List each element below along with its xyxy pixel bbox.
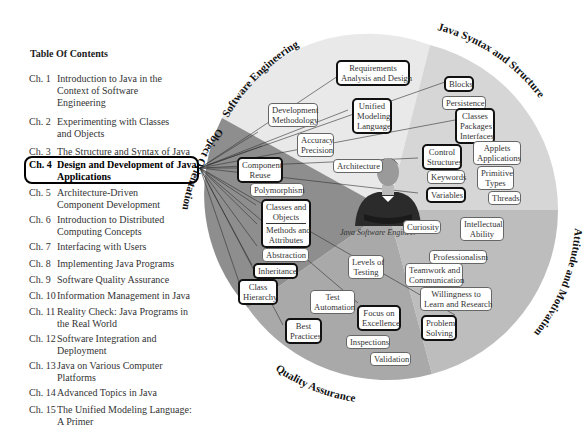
node-teamwork-communication[interactable]: Teamwork and Communication (405, 263, 463, 287)
node-applets-applications[interactable]: Applets Applications (473, 141, 521, 165)
node-primitive-types[interactable]: Primitive Types (477, 166, 514, 190)
node-validation[interactable]: Validation (370, 352, 411, 366)
toc-chapter-9[interactable]: Ch. 9 Software Quality Assurance (29, 274, 217, 286)
toc-chapter-7[interactable]: Ch. 7 Interfacing with Users (29, 241, 217, 253)
toc-title: Table Of Contents (30, 48, 108, 59)
node-unified-modeling-language[interactable]: Unified Modeling Language (352, 98, 392, 134)
toc-chapter-12[interactable]: Ch. 12 Software Integration and Deployme… (29, 333, 172, 357)
node-intellectual-ability[interactable]: Intellectual Ability (460, 217, 504, 241)
node-willingness-to-learn[interactable]: Willingness to Learn and Research (420, 287, 492, 311)
node-polymorphism[interactable]: Polymorphism (250, 183, 304, 197)
node-keywords[interactable]: Keywords (427, 170, 465, 184)
node-architecture[interactable]: Architecture (333, 159, 383, 173)
table-of-contents: Table Of Contents Ch. 1 Introduction to … (0, 0, 215, 432)
toc-chapter-5[interactable]: Ch. 5 Architecture-Driven Component Deve… (29, 187, 172, 211)
toc-chapter-13[interactable]: Ch. 13 Java on Various Computer Platform… (29, 360, 172, 384)
node-variables[interactable]: Variables (426, 187, 466, 203)
node-inheritance[interactable]: Inheritance (253, 263, 298, 279)
node-divider (266, 223, 306, 224)
node-class-hierarchy[interactable]: Class Hierarchy (238, 279, 278, 305)
node-classes-objects-methods[interactable]: Classes and Objects Methods and Attribut… (261, 199, 311, 248)
node-inspections[interactable]: Inspections (346, 335, 390, 349)
toc-chapter-10[interactable]: Ch. 10 Information Management in Java (29, 290, 217, 302)
node-accuracy-precision[interactable]: Accuracy Precision (297, 133, 334, 157)
node-levels-of-testing[interactable]: Levels of Testing (348, 255, 384, 279)
node-professionalism[interactable]: Professionalism (429, 250, 487, 264)
toc-chapter-6[interactable]: Ch. 6 Introduction to Distributed Comput… (29, 214, 177, 238)
node-abstraction[interactable]: Abstraction (262, 248, 309, 262)
node-control-structures[interactable]: Control Structures (422, 144, 462, 170)
toc-chapter-1[interactable]: Ch. 1 Introduction to Java in the Contex… (29, 73, 182, 109)
node-focus-on-excellence[interactable]: Focus on Excellence (357, 305, 401, 331)
node-component-reuse[interactable]: Component Reuse (237, 157, 283, 183)
toc-chapter-8[interactable]: Ch. 8 Implementing Java Programs (29, 258, 217, 270)
toc-chapter-2[interactable]: Ch. 2 Experimenting with Classes and Obj… (29, 116, 182, 140)
node-development-methodology[interactable]: Development Methodology (268, 103, 318, 127)
toc-chapter-4[interactable]: Ch. 4 Design and Development of Java App… (29, 159, 197, 183)
node-classes-packages-interfaces[interactable]: Classes Packages Interfaces (455, 108, 495, 144)
toc-chapter-15[interactable]: Ch. 15 The Unified Modeling Language: A … (29, 404, 197, 428)
node-best-practices[interactable]: Best Practices (285, 318, 322, 344)
node-requirements-analysis[interactable]: Requirements Analysis and Design (336, 60, 410, 86)
toc-chapter-14[interactable]: Ch. 14 Advanced Topics in Java (29, 387, 217, 399)
node-curiosity[interactable]: Curiosity (403, 220, 441, 234)
toc-chapter-11[interactable]: Ch. 11 Reality Check: Java Programs in t… (29, 306, 197, 330)
node-problem-solving[interactable]: Problem Solving (421, 315, 457, 341)
node-blocks[interactable]: Blocks (444, 76, 474, 92)
node-threads[interactable]: Threads (488, 191, 521, 205)
node-test-automation[interactable]: Test Automation (310, 290, 355, 314)
